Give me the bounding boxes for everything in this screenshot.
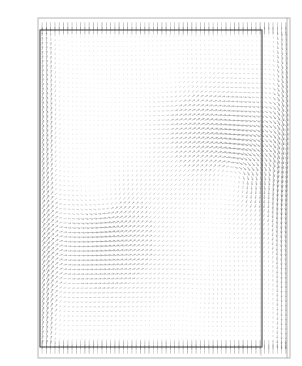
vector-field-plot [0,0,302,366]
figure-root: · · [0,0,302,366]
